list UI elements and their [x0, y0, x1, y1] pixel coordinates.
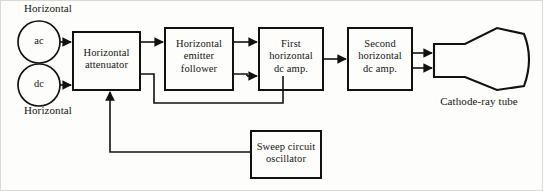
block-horizontal-attenuator: [73, 32, 140, 90]
block-second-horizontal-dc-amp: [348, 28, 412, 90]
connector-attenuator-to-first-dc-amp: [140, 74, 283, 103]
block-diagram-figure: Horizontal Horizontal ac dc Horizontal a…: [0, 0, 543, 191]
block-sweep-circuit-oscillator: [251, 131, 321, 178]
connector-sweep-oscillator-to-attenuator: [110, 92, 251, 152]
diagram-canvas: [0, 0, 543, 191]
connector-emitter-follower-stub: [233, 74, 247, 76]
ac-source-node: [18, 21, 60, 63]
cathode-ray-tube-shape: [434, 28, 529, 90]
dc-source-node: [18, 64, 60, 106]
block-first-horizontal-dc-amp: [259, 28, 323, 90]
block-horizontal-emitter-follower: [165, 28, 233, 90]
